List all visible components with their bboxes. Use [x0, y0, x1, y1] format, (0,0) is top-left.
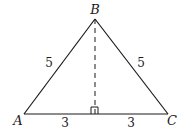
- side-bc: [95, 19, 168, 114]
- side-label-foot-c: 3: [127, 116, 135, 130]
- side-label-a-foot: 3: [61, 116, 69, 130]
- vertex-label-a: A: [12, 113, 22, 128]
- side-label-ab: 5: [45, 56, 53, 70]
- side-label-bc: 5: [137, 56, 145, 70]
- vertex-label-b: B: [89, 2, 100, 17]
- side-ab: [24, 19, 95, 114]
- vertex-label-c: C: [167, 113, 177, 128]
- triangle-diagram: A B C 5 5 3 3: [0, 0, 185, 133]
